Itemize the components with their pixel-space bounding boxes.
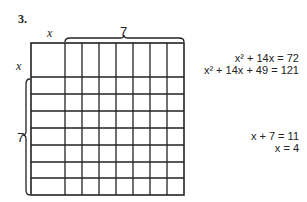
left-brace: [23, 79, 30, 195]
equation-2: x² + 14x + 49 = 121: [169, 64, 299, 76]
equation-1: x² + 14x = 72: [179, 52, 299, 64]
equation-4: x = 4: [179, 142, 299, 154]
top-brace: [65, 35, 184, 42]
completing-square-grid: [0, 0, 307, 202]
equation-3: x + 7 = 11: [179, 130, 299, 142]
